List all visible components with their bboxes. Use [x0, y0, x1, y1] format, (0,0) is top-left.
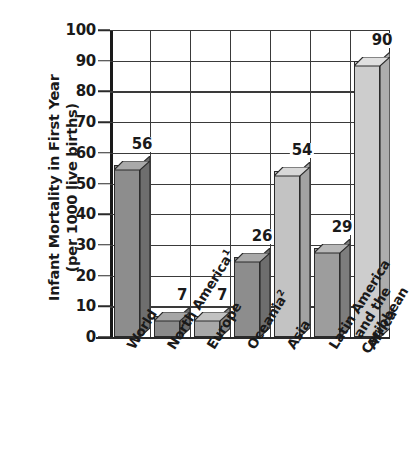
plot-area — [110, 30, 390, 337]
horizontal-gridline — [110, 122, 390, 123]
vertical-gridline — [310, 30, 311, 337]
bar-value-label: 29 — [330, 220, 354, 235]
infant-mortality-bar-chart: Infant Mortality in First Year (per 1000… — [0, 0, 409, 463]
y-tick-label: 30 — [52, 236, 96, 254]
y-tick-label: 50 — [52, 175, 96, 193]
bar-top-face — [114, 156, 150, 165]
horizontal-gridline — [110, 91, 390, 92]
bar-front-face — [114, 165, 140, 337]
vertical-gridline — [270, 30, 271, 337]
y-tick-label: 40 — [52, 205, 96, 223]
y-tick-mark — [98, 152, 110, 154]
bar-side-face — [300, 162, 310, 337]
y-tick-mark — [98, 121, 110, 123]
y-tick-mark — [98, 213, 110, 215]
bar-value-label: 54 — [290, 143, 314, 158]
y-tick-mark — [98, 244, 110, 246]
bar-top-face — [354, 52, 390, 61]
y-tick-label: 0 — [52, 328, 96, 346]
y-tick-mark — [98, 183, 110, 185]
y-tick-label: 80 — [52, 82, 96, 100]
y-tick-mark — [98, 306, 110, 308]
horizontal-gridline — [110, 214, 390, 215]
y-tick-label: 20 — [52, 267, 96, 285]
bar-value-label: 7 — [215, 288, 229, 303]
bar-top-face — [314, 239, 350, 248]
y-tick-label: 90 — [52, 52, 96, 70]
y-tick-mark — [98, 336, 110, 338]
horizontal-gridline — [110, 153, 390, 154]
horizontal-gridline — [110, 30, 390, 31]
vertical-gridline — [350, 30, 351, 337]
vertical-gridline — [150, 30, 151, 337]
bar-top-face — [234, 248, 270, 257]
horizontal-gridline — [110, 184, 390, 185]
y-tick-label: 60 — [52, 144, 96, 162]
bar — [114, 165, 140, 337]
bar-top-face — [274, 162, 310, 171]
y-tick-label: 70 — [52, 113, 96, 131]
bar-value-label: 56 — [130, 137, 154, 152]
vertical-gridline — [230, 30, 231, 337]
bar-value-label: 90 — [370, 33, 394, 48]
y-tick-mark — [98, 29, 110, 31]
horizontal-gridline — [110, 61, 390, 62]
y-tick-label: 100 — [52, 21, 96, 39]
bar-value-label: 26 — [250, 229, 274, 244]
y-tick-mark — [98, 91, 110, 93]
y-tick-label: 10 — [52, 297, 96, 315]
y-tick-mark — [98, 60, 110, 62]
bar-value-label: 7 — [175, 288, 189, 303]
vertical-gridline — [190, 30, 191, 337]
y-tick-mark — [98, 275, 110, 277]
